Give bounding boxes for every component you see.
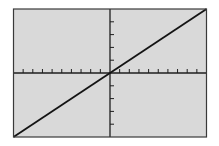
graph-screen [0, 0, 219, 146]
